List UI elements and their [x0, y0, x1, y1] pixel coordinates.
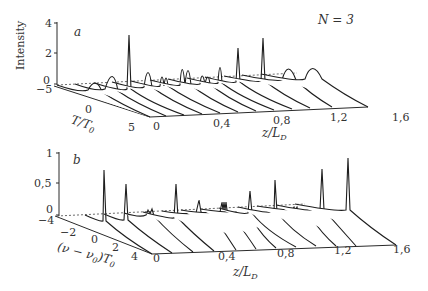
figure: 4 2 0 Intensity a N = 3 −5 0 5 T/T0 0 0,…: [0, 0, 428, 291]
z-tick-b-1.2: 1,2: [334, 244, 352, 257]
z-tick-1.2: 1,2: [330, 111, 348, 124]
y-tick-0.5: 0,5: [34, 177, 52, 190]
panel-b: 1 0,5 0 b −4 −2 0 2 4 (ν − ν0)T0 0 0,4 0…: [34, 147, 411, 281]
t-tick-5: 5: [128, 121, 135, 134]
y-axis-label: Intensity: [14, 20, 27, 70]
z-tick-0: 0: [153, 120, 160, 133]
z-axis-label-b: z/LD: [232, 265, 258, 281]
f-tick-2: 2: [112, 241, 119, 254]
t-tick-m5: −5: [36, 83, 52, 96]
f-tick-0: 0: [91, 233, 98, 246]
panel-a: 4 2 0 Intensity a N = 3 −5 0 5 T/T0 0 0,…: [14, 13, 410, 142]
annotation-n: N = 3: [317, 13, 354, 27]
panel-label-b: b: [73, 153, 81, 167]
t-tick-0: 0: [85, 103, 92, 116]
t-axis-label: T/T0: [69, 113, 98, 136]
z-tick-b-0.4: 0,4: [218, 250, 236, 263]
traces-b: [85, 158, 396, 254]
f-tick-4: 4: [131, 250, 138, 263]
panel-label-a: a: [74, 25, 81, 39]
y-tick-1: 1: [46, 147, 53, 160]
z-tick-0.4: 0,4: [213, 117, 231, 130]
y-tick-2: 2: [45, 47, 52, 60]
z-axis-label: z/LD: [261, 126, 287, 142]
f-tick-m4: −4: [38, 214, 54, 227]
z-tick-b-0.8: 0,8: [277, 247, 295, 260]
f-tick-m2: −2: [60, 226, 76, 239]
z-tick-1.6: 1,6: [392, 111, 410, 124]
traces-a: [57, 35, 368, 117]
freq-axis-label: (ν − ν0)T0: [56, 240, 118, 270]
z-tick-b-0: 0: [153, 252, 160, 265]
y-tick-4: 4: [45, 17, 52, 30]
